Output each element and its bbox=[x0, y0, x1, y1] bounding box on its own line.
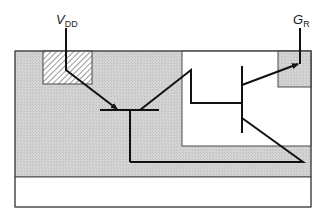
bottom-layer bbox=[15, 177, 311, 207]
vdd-label: VDD bbox=[56, 12, 78, 29]
diagram-canvas: VDD GR bbox=[0, 0, 326, 219]
hatched-contact-region bbox=[43, 51, 92, 84]
gr-label: GR bbox=[293, 12, 310, 29]
